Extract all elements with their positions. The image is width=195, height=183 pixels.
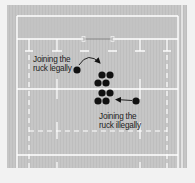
in-goal-area xyxy=(17,16,178,39)
illegal-join-label: Joining the ruck illegally xyxy=(99,112,141,130)
ruck-player xyxy=(98,71,105,78)
ruck-player xyxy=(102,97,109,104)
legal-join-label-line2: ruck legally xyxy=(33,64,72,73)
rugby-field-diagram xyxy=(0,0,195,183)
ruck-player xyxy=(106,71,113,78)
legal-join-label: Joining the ruck legally xyxy=(33,55,72,73)
illegal-join-label-line2: ruck illegally xyxy=(99,121,141,130)
ruck-player xyxy=(94,97,101,104)
ruck-player xyxy=(98,89,105,96)
legal-joiner-player xyxy=(73,66,80,73)
ruck-player xyxy=(94,79,101,86)
illegal-join-label-line1: Joining the xyxy=(99,112,141,121)
illegal-joiner-player xyxy=(132,97,139,104)
legal-join-label-line1: Joining the xyxy=(33,55,72,64)
ruck-player xyxy=(106,89,113,96)
ruck-player xyxy=(102,79,109,86)
